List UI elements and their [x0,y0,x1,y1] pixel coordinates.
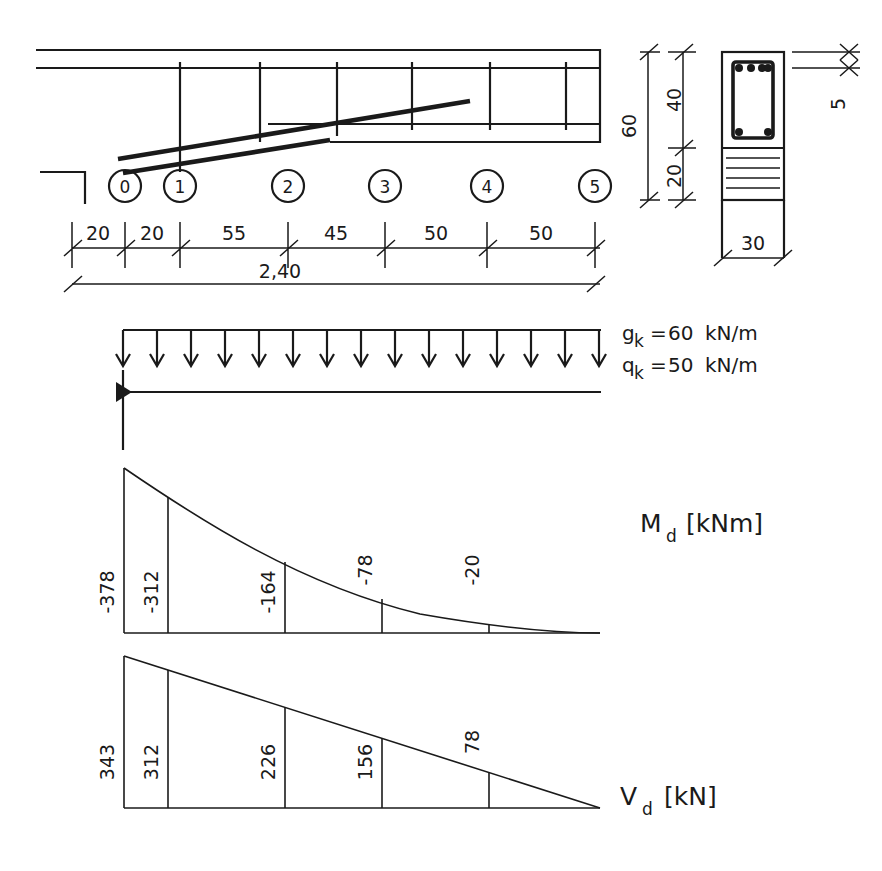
dim-label-40: 40 [663,88,685,112]
load-value-q: 50 [668,353,693,377]
shear-title-symbol: V [620,782,637,811]
shear-value-label-4: 78 [461,730,483,754]
cover-leader-lines [792,52,860,68]
node-marker-3[interactable]: 3 [369,170,401,202]
node-label-5: 5 [590,177,601,197]
load-arrow [116,330,130,366]
load-arrow [286,330,300,366]
moment-title-unit: [kNm] [686,509,763,538]
dimension-label-2: 55 [222,222,246,244]
node-label-3: 3 [380,177,391,197]
support-wall-symbol [40,172,85,204]
load-arrow [320,330,334,366]
node-label-4: 4 [482,177,493,197]
moment-value-label-4: -20 [461,554,483,585]
width-label-30: 30 [741,232,765,254]
moment-diagram: -378 -312 -164 -78 -20 M d [kNm] [96,468,763,633]
section-height-dimensions: 60 40 20 [618,44,696,208]
dimension-label-5: 50 [529,222,553,244]
width-dimension: 30 [714,232,792,266]
shear-line [124,656,600,808]
cover-label-5: 5 [827,98,849,110]
drawing-canvas: 0 1 2 3 4 5 [0,0,882,871]
load-diagram [116,330,606,450]
node-markers: 0 1 2 3 4 5 [109,170,611,202]
inclined-bar-lower [123,140,330,173]
load-arrow [218,330,232,366]
inclined-bar-upper [118,101,470,159]
cover-dimension: 5 [792,44,860,110]
load-arrow [490,330,504,366]
load-arrow [184,330,198,366]
load-arrow [456,330,470,366]
rebar-bottom-left [735,128,743,136]
rebar-top-right [764,64,772,72]
load-arrow [388,330,402,366]
load-value-g: 60 [668,321,693,345]
node-marker-1[interactable]: 1 [164,170,196,202]
load-equals-q: = [650,353,667,377]
load-symbol-q: q [622,353,635,377]
load-arrow [558,330,572,366]
rebar-top-mid1 [747,64,755,72]
load-labels: g k = 60 kN/m q k = 50 kN/m [622,321,758,383]
load-equals-g: = [650,321,667,345]
moment-curve [124,468,600,633]
load-arrow [592,330,606,366]
node-label-2: 2 [283,177,294,197]
dimension-label-4: 50 [424,222,448,244]
total-length-label: 2,40 [259,260,301,282]
load-arrow [252,330,266,366]
moment-title-subscript: d [666,526,677,546]
shear-diagram-title: V d [kN] [620,782,717,819]
stirrup-outline-icon [733,62,773,138]
shear-value-label-0: 343 [96,744,118,780]
shear-title-subscript: d [642,799,653,819]
node-label-1: 1 [175,177,186,197]
node-marker-2[interactable]: 2 [272,170,304,202]
beam-outline [330,50,600,142]
dimension-chain: 20 20 55 45 50 50 2,40 [64,222,605,292]
moment-value-label-3: -78 [354,554,376,585]
load-label-qk: q k = 50 kN/m [622,353,758,383]
rebar-bottom-right [764,128,772,136]
shear-value-label-1: 312 [140,744,162,780]
dim-label-20: 20 [663,164,685,188]
shear-value-label-2: 226 [257,744,279,780]
shear-title-unit: [kN] [664,782,717,811]
node-label-0: 0 [120,177,131,197]
load-arrow [354,330,368,366]
dimension-label-3: 45 [324,222,348,244]
node-marker-5[interactable]: 5 [579,170,611,202]
shear-value-label-3: 156 [354,744,376,780]
load-unit-g: kN/m [705,321,758,345]
moment-title-symbol: M [640,509,662,538]
load-arrow-group [116,330,606,366]
cross-section [722,52,784,258]
node-marker-4[interactable]: 4 [471,170,503,202]
dimension-label-1: 20 [140,222,164,244]
load-subscript-k-q: k [634,363,644,383]
load-label-gk: g k = 60 kN/m [622,321,758,351]
shear-diagram: 343 312 226 156 78 V d [kN] [96,656,717,819]
section-hatch [726,158,780,188]
load-symbol-g: g [622,321,635,345]
dim-label-60: 60 [618,114,640,138]
moment-value-label-0: -378 [96,570,118,613]
rebar-top-left [735,64,743,72]
dimension-label-0: 20 [86,222,110,244]
moment-value-label-2: -164 [257,570,279,613]
load-unit-q: kN/m [705,353,758,377]
load-arrow [422,330,436,366]
moment-diagram-title: M d [kNm] [640,509,763,546]
moment-value-label-1: -312 [140,570,162,613]
load-subscript-k-g: k [634,331,644,351]
load-arrow [524,330,538,366]
load-arrow [150,330,164,366]
